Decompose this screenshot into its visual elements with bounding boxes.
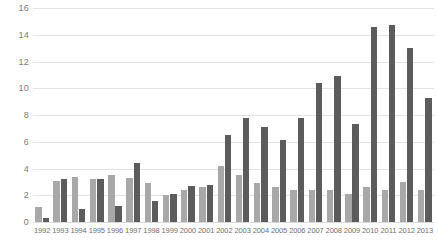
bar-series-2-2009 (352, 124, 358, 222)
bar-series-2-2001 (207, 185, 213, 222)
y-axis-tick-label: 4 (0, 165, 29, 174)
bar-series-1-2008 (327, 190, 333, 222)
bar-group (161, 8, 179, 222)
y-axis-tick-label: 8 (0, 111, 29, 120)
x-axis-tick-label: 1997 (124, 226, 142, 235)
bar-group (142, 8, 160, 222)
bar-series-1-2003 (236, 175, 242, 222)
bar-series-2-1993 (61, 179, 67, 222)
bar-series-2-2000 (188, 186, 194, 222)
bar-series-1-2002 (218, 166, 224, 222)
bar-group (234, 8, 252, 222)
x-axis-tick-label: 2000 (179, 226, 197, 235)
bar-series-1-2006 (290, 190, 296, 222)
bar-group (124, 8, 142, 222)
bar-series-1-2005 (272, 187, 278, 222)
x-axis-tick-label: 1993 (51, 226, 69, 235)
x-axis-tick-label: 2003 (234, 226, 252, 235)
bar-group (51, 8, 69, 222)
bar-group (398, 8, 416, 222)
x-axis-tick-label: 2004 (252, 226, 270, 235)
x-axis-tick-label: 1995 (88, 226, 106, 235)
bar-series-2-2004 (261, 127, 267, 222)
y-axis-tick-label: 2 (0, 191, 29, 200)
bar-series-1-2013 (418, 190, 424, 222)
bar-group (69, 8, 87, 222)
bar-series-1-2007 (309, 190, 315, 222)
x-axis-tick-label: 2006 (288, 226, 306, 235)
bar-series-2-1995 (97, 179, 103, 222)
bar-series-2-2008 (334, 76, 340, 222)
bar-series-1-2012 (400, 182, 406, 222)
bar-series-1-1998 (145, 183, 151, 222)
bar-series-2-1996 (115, 206, 121, 222)
y-axis-tick-label: 14 (0, 31, 29, 40)
bar-series-2-2006 (298, 118, 304, 222)
bar-series-1-1994 (72, 177, 78, 222)
x-axis-labels: 1992199319941995199619971998199920002001… (33, 226, 434, 244)
x-axis-tick-label: 2012 (398, 226, 416, 235)
x-axis-tick-label: 2008 (325, 226, 343, 235)
x-axis-tick-label: 2005 (270, 226, 288, 235)
x-axis-tick-label: 2010 (361, 226, 379, 235)
bar-group (106, 8, 124, 222)
bar-series-1-2009 (345, 194, 351, 222)
x-axis-tick-label: 1996 (106, 226, 124, 235)
bar-chart: 0246810121416 19921993199419951996199719… (0, 0, 438, 249)
y-axis-tick-label: 16 (0, 4, 29, 13)
bar-series-1-2004 (254, 183, 260, 222)
bar-series-2-2007 (316, 83, 322, 222)
bar-series-1-2010 (363, 187, 369, 222)
bar-series-2-2013 (425, 98, 431, 222)
x-axis-tick-label: 2009 (343, 226, 361, 235)
bar-series-1-1996 (108, 175, 114, 222)
bar-series-1-2000 (181, 190, 187, 222)
bar-group (88, 8, 106, 222)
bar-series-2-2003 (243, 118, 249, 222)
x-axis-tick-label: 2001 (197, 226, 215, 235)
bars-layer (33, 8, 434, 222)
bar-group (197, 8, 215, 222)
bar-series-2-2011 (389, 25, 395, 222)
bar-series-1-1993 (53, 181, 59, 222)
x-axis-tick-label: 2007 (306, 226, 324, 235)
bar-series-2-1998 (152, 201, 158, 222)
x-axis-tick-label: 1998 (142, 226, 160, 235)
bar-series-2-2012 (407, 48, 413, 222)
gridline (33, 222, 434, 223)
bar-series-1-1997 (126, 178, 132, 222)
bar-series-2-2005 (280, 140, 286, 222)
bar-series-2-1999 (170, 194, 176, 222)
bar-series-1-1995 (90, 179, 96, 222)
bar-group (252, 8, 270, 222)
bar-group (325, 8, 343, 222)
y-axis-labels: 0246810121416 (0, 8, 29, 222)
bar-series-1-1992 (35, 207, 41, 222)
x-axis-tick-label: 1994 (69, 226, 87, 235)
x-axis-tick-label: 2002 (215, 226, 233, 235)
bar-group (179, 8, 197, 222)
x-axis-tick-label: 1999 (161, 226, 179, 235)
bar-series-2-1992 (43, 218, 49, 222)
bar-series-2-2010 (371, 27, 377, 222)
bar-series-2-1997 (134, 163, 140, 222)
x-axis-tick-label: 2013 (416, 226, 434, 235)
bar-series-2-1994 (79, 209, 85, 222)
x-axis-tick-label: 2011 (379, 226, 397, 235)
bar-group (379, 8, 397, 222)
bar-group (270, 8, 288, 222)
bar-series-1-1999 (163, 195, 169, 222)
bar-group (361, 8, 379, 222)
bar-group (215, 8, 233, 222)
bar-series-1-2001 (199, 187, 205, 222)
plot-area (33, 8, 434, 222)
bar-group (33, 8, 51, 222)
x-axis-tick-label: 1992 (33, 226, 51, 235)
bar-group (416, 8, 434, 222)
bar-series-2-2002 (225, 135, 231, 222)
bar-group (306, 8, 324, 222)
bar-series-1-2011 (382, 190, 388, 222)
y-axis-tick-label: 6 (0, 138, 29, 147)
bar-group (343, 8, 361, 222)
y-axis-tick-label: 0 (0, 218, 29, 227)
